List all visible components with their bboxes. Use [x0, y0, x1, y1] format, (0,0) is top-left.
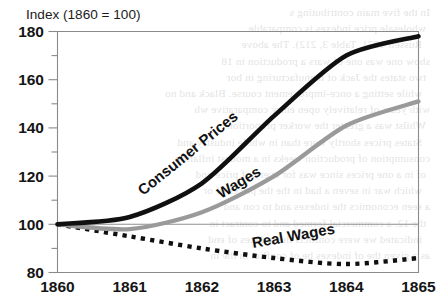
x-axis-labels: 1860 1861 1862 1863 1864 1865 — [40, 278, 436, 295]
y-tick-label-140: 140 — [18, 119, 44, 136]
x-tick-label-1865: 1865 — [401, 278, 436, 295]
y-axis-labels: 180 160 140 120 100 80 — [18, 23, 44, 281]
x-tick-label-1864: 1864 — [329, 278, 364, 295]
y-axis-minor-ticks — [52, 56, 58, 249]
chart-container: Index (1860 = 100) 180 160 140 12 — [0, 0, 436, 306]
x-tick-label-1863: 1863 — [257, 278, 292, 295]
x-tick-label-1860: 1860 — [40, 278, 74, 295]
index-line-chart: Index (1860 = 100) 180 160 140 12 — [0, 0, 436, 306]
y-tick-label-100: 100 — [18, 216, 44, 233]
y-tick-label-160: 160 — [18, 71, 44, 88]
y-tick-label-180: 180 — [18, 23, 44, 40]
x-tick-label-1862: 1862 — [185, 278, 219, 295]
chart-axis-title: Index (1860 = 100) — [26, 7, 141, 22]
y-tick-label-120: 120 — [18, 168, 44, 185]
x-tick-label-1861: 1861 — [112, 278, 147, 295]
